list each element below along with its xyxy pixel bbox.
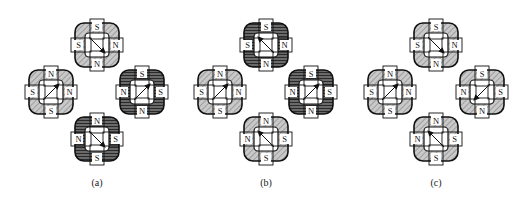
pole-label-top: S [95, 22, 100, 32]
caption-panel-c: (c) [430, 177, 441, 188]
pole-label-top: S [434, 22, 439, 32]
pole-label-right: N [281, 40, 287, 50]
pole-label-left: S [415, 40, 420, 50]
pole-label-top: N [433, 116, 439, 126]
pole-label-left: N [414, 134, 420, 144]
magnet-cell-c-right: SNNS [456, 66, 508, 118]
pole-label-right: N [112, 40, 118, 50]
diagram-canvas: SNSNNSSNSNNSNSNSSNSNNSSNSNNSNSNSSNSNNSSN… [0, 0, 516, 207]
pole-label-bottom: S [264, 153, 269, 163]
pole-label-bottom: N [139, 106, 145, 116]
pole-label-left: S [199, 87, 204, 97]
magnet-cell-c-bottom: NSNS [410, 113, 462, 165]
pole-label-top: S [309, 69, 314, 79]
caption-panel-a: (a) [91, 177, 102, 188]
pole-label-right: S [498, 87, 503, 97]
pole-label-left: N [75, 134, 81, 144]
pole-label-bottom: S [218, 106, 223, 116]
magnet-cell-b-top: SNSN [240, 19, 292, 71]
pole-label-left: S [30, 87, 35, 97]
pole-label-left: N [120, 87, 126, 97]
pole-label-bottom: N [263, 59, 269, 69]
caption-panel-b: (b) [260, 177, 272, 188]
pole-label-bottom: S [95, 153, 100, 163]
pole-label-right: N [66, 87, 72, 97]
pole-label-right: S [327, 87, 332, 97]
figure-stage: SNSNNSSNSNNSNSNSSNSNNSSNSNNSNSNSSNSNNSSN… [0, 0, 516, 207]
magnet-cell-c-left: NSSN [364, 66, 416, 118]
magnet-cell-a-right: SNNS [116, 66, 168, 118]
magnet-cell-a-bottom: NSNS [71, 113, 123, 165]
pole-label-bottom: N [308, 106, 314, 116]
pole-label-top: S [264, 22, 269, 32]
pole-label-top: S [140, 69, 145, 79]
magnet-cell-a-left: NSSN [25, 66, 77, 118]
pole-label-right: S [452, 134, 457, 144]
pole-label-right: S [158, 87, 163, 97]
pole-label-top: N [263, 116, 269, 126]
pole-label-top: N [387, 69, 393, 79]
pole-label-right: N [405, 87, 411, 97]
pole-label-left: N [460, 87, 466, 97]
magnet-cell-b-bottom: NSNS [240, 113, 292, 165]
pole-label-top: N [217, 69, 223, 79]
cells-layer: SNSNNSSNSNNSNSNSSNSNNSSNSNNSNSNSSNSNNSSN… [25, 19, 508, 165]
pole-label-right: S [282, 134, 287, 144]
pole-label-right: S [113, 134, 118, 144]
pole-label-bottom: N [433, 59, 439, 69]
magnet-cell-c-top: SNSN [410, 19, 462, 71]
pole-label-bottom: N [94, 59, 100, 69]
pole-label-right: N [451, 40, 457, 50]
magnet-cell-a-top: SNSN [71, 19, 123, 71]
pole-label-left: S [369, 87, 374, 97]
pole-label-left: N [244, 134, 250, 144]
pole-label-right: N [235, 87, 241, 97]
pole-label-top: N [94, 116, 100, 126]
pole-label-top: N [48, 69, 54, 79]
pole-label-left: S [245, 40, 250, 50]
pole-label-bottom: S [434, 153, 439, 163]
pole-label-bottom: S [49, 106, 54, 116]
pole-label-top: S [480, 69, 485, 79]
magnet-cell-b-right: SNNS [285, 66, 337, 118]
pole-label-left: N [289, 87, 295, 97]
pole-label-bottom: S [388, 106, 393, 116]
pole-label-bottom: N [479, 106, 485, 116]
pole-label-left: S [76, 40, 81, 50]
magnet-cell-b-left: NSSN [194, 66, 246, 118]
